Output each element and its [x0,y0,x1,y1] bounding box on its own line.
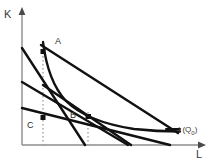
isoquant-label-close: ) [195,125,198,134]
isoquant-curve-label: I (Q0) [178,125,197,136]
figure-canvas [0,0,213,167]
tangent-line-through-a [41,45,178,133]
point-label-b: B [70,110,76,120]
x-axis-label: L [196,148,202,160]
point-label-c: C [27,120,34,130]
point-marker-b [86,114,92,119]
y-axis-label: K [4,8,11,20]
isocost-line-1 [22,48,85,145]
point-marker-c [41,115,46,120]
point-label-a: A [55,36,61,46]
k-axis-arrowhead [19,7,26,15]
point-marker-a [41,49,46,54]
isoquant-isocost-figure: K L A B C I (Q0) [0,0,213,167]
isoquant-label-text: I (Q [178,125,191,134]
